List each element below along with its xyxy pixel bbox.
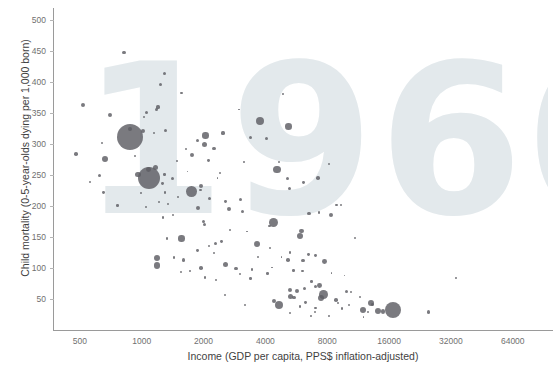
data-point-bubble: [367, 311, 369, 313]
x-axis-title: Income (GDP per capita, PPS$ inflation-a…: [53, 350, 553, 362]
data-point-bubble: [167, 203, 169, 205]
data-point-bubble: [196, 206, 200, 210]
data-point-bubble: [145, 111, 148, 114]
data-point-bubble: [360, 307, 366, 313]
x-axis-tick-label: 500: [73, 336, 87, 346]
data-point-bubble: [89, 181, 91, 183]
data-point-bubble: [158, 201, 160, 203]
plot-area: 1960: [53, 8, 548, 330]
data-point-bubble: [285, 123, 292, 130]
y-axis-tick-mark: [50, 20, 54, 21]
data-point-bubble: [303, 287, 307, 291]
data-point-bubble: [289, 312, 291, 314]
data-point-bubble: [243, 161, 245, 163]
data-point-bubble: [212, 147, 215, 150]
data-point-bubble: [98, 174, 101, 177]
data-point-bubble: [178, 235, 184, 241]
data-point-bubble: [273, 166, 280, 173]
data-point-bubble: [155, 108, 159, 112]
data-point-bubble: [318, 295, 324, 301]
data-point-bubble: [328, 315, 330, 317]
data-point-bubble: [163, 173, 165, 175]
data-point-bubble: [254, 241, 260, 247]
data-point-bubble: [328, 163, 330, 165]
data-point-bubble: [217, 177, 219, 179]
data-point-bubble: [186, 186, 197, 197]
data-point-bubble: [354, 237, 356, 239]
data-point-bubble: [329, 213, 333, 217]
data-point-bubble: [81, 103, 85, 107]
data-point-bubble: [246, 231, 248, 233]
data-point-bubble: [359, 296, 361, 298]
data-point-bubble: [140, 192, 142, 194]
x-axis-tick-label: 32000: [439, 336, 463, 346]
data-point-bubble: [256, 117, 264, 125]
data-point-bubble: [143, 116, 145, 118]
y-axis-tick-mark: [50, 51, 54, 52]
data-point-bubble: [102, 191, 105, 194]
data-point-bubble: [224, 200, 227, 203]
data-point-bubble: [265, 137, 268, 140]
data-point-bubble: [108, 113, 112, 117]
data-point-bubble: [166, 237, 169, 240]
data-point-bubble: [204, 276, 206, 278]
data-point-bubble: [190, 153, 194, 157]
y-axis-tick-label: 50: [6, 294, 46, 304]
data-point-bubble: [163, 72, 167, 76]
data-point-bubble: [286, 258, 290, 262]
data-point-bubble: [322, 259, 327, 264]
data-point-bubble: [299, 305, 301, 307]
data-point-bubble: [314, 285, 317, 288]
data-point-bubble: [341, 307, 343, 309]
data-point-bubble: [196, 249, 199, 252]
data-point-bubble: [348, 304, 350, 306]
data-point-bubble: [153, 132, 155, 134]
data-point-bubble: [185, 148, 187, 150]
bubble-layer: [53, 8, 548, 330]
data-point-bubble: [292, 269, 294, 271]
data-point-bubble: [289, 251, 292, 254]
data-point-bubble: [234, 267, 237, 270]
data-point-bubble: [141, 129, 145, 133]
y-axis-title: Child mortality (0-5-year-olds dying per…: [19, 28, 31, 288]
data-point-bubble: [269, 247, 271, 249]
data-point-bubble: [350, 291, 352, 293]
data-point-bubble: [381, 309, 385, 313]
data-point-bubble: [176, 160, 178, 162]
data-point-bubble: [249, 277, 251, 279]
data-point-bubble: [220, 240, 223, 243]
data-point-bubble: [363, 316, 365, 318]
y-axis-tick-mark: [50, 82, 54, 83]
data-point-bubble: [266, 272, 269, 275]
data-point-bubble: [102, 156, 108, 162]
data-point-bubble: [427, 310, 430, 313]
data-point-bubble: [145, 206, 147, 208]
data-point-bubble: [297, 233, 303, 239]
data-point-bubble: [180, 92, 182, 94]
data-point-bubble: [199, 189, 201, 191]
data-point-bubble: [288, 187, 291, 190]
data-point-bubble: [171, 177, 174, 180]
data-point-bubble: [345, 290, 348, 293]
data-point-bubble: [138, 167, 160, 189]
data-point-bubble: [224, 294, 226, 296]
data-point-bubble: [213, 252, 215, 254]
x-axis-tick-label: 64000: [501, 336, 525, 346]
data-point-bubble: [286, 177, 289, 180]
data-point-bubble: [74, 152, 78, 156]
data-point-bubble: [310, 315, 312, 317]
data-point-bubble: [295, 289, 300, 294]
data-point-bubble: [134, 155, 136, 157]
y-axis-tick-mark: [50, 175, 54, 176]
data-point-bubble: [221, 131, 224, 134]
data-point-bubble: [116, 204, 119, 207]
y-axis-tick-mark: [50, 268, 54, 269]
data-point-bubble: [314, 254, 317, 257]
data-point-bubble: [182, 258, 185, 261]
x-axis-line: [53, 330, 553, 331]
data-point-bubble: [154, 255, 160, 261]
data-point-bubble: [223, 262, 228, 267]
y-axis-tick-mark: [50, 206, 54, 207]
data-point-bubble: [307, 212, 311, 216]
data-point-bubble: [307, 253, 310, 256]
